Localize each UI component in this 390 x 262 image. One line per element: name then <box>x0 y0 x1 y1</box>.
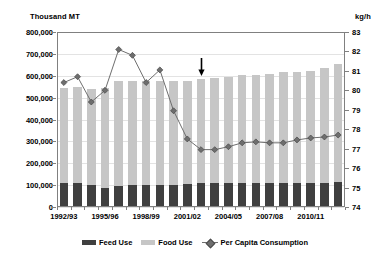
line-data-point-marker <box>294 137 300 143</box>
right-axis-labels: 83828180797877767574 <box>352 0 390 262</box>
line-data-point-marker <box>171 108 177 114</box>
line-data-point-marker <box>75 74 81 80</box>
x-axis-tick <box>304 207 305 210</box>
down-arrow-icon <box>197 58 206 76</box>
left-axis-tick <box>52 32 56 33</box>
line-data-point-marker <box>308 135 314 141</box>
x-axis-tick <box>84 207 85 210</box>
left-axis-labels: 800,000700,000600,000500,000400,000300,0… <box>0 0 53 262</box>
x-axis-tick <box>249 207 250 210</box>
x-axis-tick <box>126 207 127 210</box>
left-axis-tick <box>52 207 56 208</box>
left-axis-tick <box>52 98 56 99</box>
left-axis-tick-label: 400,000 <box>26 115 53 124</box>
right-axis-tick <box>345 71 349 72</box>
x-axis-tick <box>290 207 291 210</box>
line-data-point-marker <box>129 52 135 58</box>
right-axis-tick <box>345 168 349 169</box>
right-axis-tick-label: 74 <box>352 203 360 212</box>
x-axis-tick <box>180 207 181 210</box>
right-axis-tick-label: 81 <box>352 66 360 75</box>
x-axis-tick-label: 2010/11 <box>297 212 324 221</box>
right-axis-tick <box>345 188 349 189</box>
x-axis-tick <box>139 207 140 210</box>
line-data-point-marker <box>321 134 327 140</box>
right-axis-tick <box>345 129 349 130</box>
left-axis-tick <box>52 54 56 55</box>
right-axis-tick-label: 79 <box>352 105 360 114</box>
x-axis-tick <box>222 207 223 210</box>
right-axis-tick-label: 80 <box>352 86 360 95</box>
legend-item-per-capita-consumption: Per Capita Consumption <box>202 238 309 247</box>
x-axis-tick <box>345 207 346 210</box>
plot-border-right <box>344 32 345 207</box>
right-axis-tick-label: 82 <box>352 47 360 56</box>
right-axis-tick <box>345 110 349 111</box>
line-data-point-marker <box>280 140 286 146</box>
x-axis-tick <box>235 207 236 210</box>
right-axis-tick <box>345 32 349 33</box>
x-axis-tick <box>98 207 99 210</box>
per-capita-line-marker-icon <box>202 239 218 246</box>
left-axis-tick-label: 600,000 <box>26 71 53 80</box>
x-axis-tick <box>263 207 264 210</box>
right-axis-tick <box>345 90 349 91</box>
x-axis-tick <box>208 207 209 210</box>
line-data-point-marker <box>335 132 341 138</box>
x-axis-tick <box>71 207 72 210</box>
x-axis-tick-label: 1992/93 <box>50 212 77 221</box>
feed-use-swatch-icon <box>82 240 96 245</box>
line-data-point-marker <box>267 140 273 146</box>
left-axis-tick <box>52 141 56 142</box>
x-axis-tick <box>153 207 154 210</box>
right-axis-tick <box>345 149 349 150</box>
left-axis-tick <box>52 163 56 164</box>
legend-item-feed-use: Feed Use <box>82 238 132 247</box>
x-axis-tick <box>318 207 319 210</box>
left-axis-tick-label: 300,000 <box>26 137 53 146</box>
line-data-point-marker <box>253 139 259 145</box>
x-axis-tick <box>276 207 277 210</box>
left-axis-tick-label: 500,000 <box>26 93 53 102</box>
legend-label-per-capita-consumption: Per Capita Consumption <box>221 238 309 247</box>
left-axis-tick <box>52 120 56 121</box>
line-data-point-marker <box>61 80 67 86</box>
chart-container: Thousand MT kg/h 800,000700,000600,00050… <box>0 0 390 262</box>
right-axis-tick-label: 76 <box>352 164 360 173</box>
x-axis-tick-label: 1995/96 <box>91 212 118 221</box>
x-axis-tick <box>57 207 58 210</box>
x-axis-tick-label: 2004/05 <box>215 212 242 221</box>
x-axis-tick <box>167 207 168 210</box>
x-axis-tick <box>194 207 195 210</box>
food-use-swatch-icon <box>141 240 155 245</box>
legend: Feed Use Food Use Per Capita Consumption <box>0 238 390 247</box>
right-axis-tick-label: 77 <box>352 144 360 153</box>
line-data-point-marker <box>225 144 231 150</box>
left-axis-tick <box>52 185 56 186</box>
legend-label-food-use: Food Use <box>158 238 192 247</box>
left-axis-tick-label: 200,000 <box>26 159 53 168</box>
x-axis-tick-label: 2007/08 <box>256 212 283 221</box>
line-data-point-marker <box>116 47 122 53</box>
right-axis-tick-label: 78 <box>352 125 360 134</box>
x-axis-tick <box>331 207 332 210</box>
legend-item-food-use: Food Use <box>141 238 192 247</box>
left-axis-tick-label: 700,000 <box>26 49 53 58</box>
right-axis-tick-label: 83 <box>352 28 360 37</box>
line-data-point-marker <box>212 147 218 153</box>
plot-border-left <box>57 32 58 207</box>
x-axis-tick-label: 2001/02 <box>174 212 201 221</box>
x-axis-tick <box>112 207 113 210</box>
line-data-point-marker <box>239 140 245 146</box>
right-axis-tick-label: 75 <box>352 183 360 192</box>
legend-label-feed-use: Feed Use <box>99 238 132 247</box>
left-axis-tick-label: 100,000 <box>26 181 53 190</box>
right-axis-tick <box>345 51 349 52</box>
gridline <box>58 207 344 208</box>
left-axis-tick-label: 800,000 <box>26 28 53 37</box>
left-axis-tick <box>52 76 56 77</box>
plot-border-top <box>57 32 345 33</box>
plot-border-bottom <box>57 206 345 207</box>
x-axis-tick-label: 1998/99 <box>133 212 160 221</box>
